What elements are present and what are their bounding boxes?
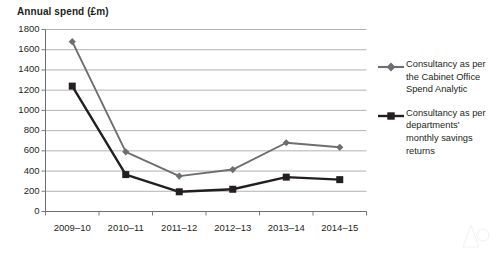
legend-label-series-1: Consultancy as per the Cabinet Office Sp… [406,58,494,96]
x-axis-tick-label: 2012–13 [206,222,260,233]
diamond-marker-icon [378,61,404,73]
series-line [72,42,340,176]
watermark-icon [457,221,493,251]
data-point-marker [283,174,290,181]
series-2 [69,83,344,196]
chart-legend: Consultancy as per the Cabinet Office Sp… [378,58,494,168]
data-point-marker [336,144,343,151]
y-axis-tick-label: 800 [8,125,40,135]
y-axis-tick-label: 1000 [8,105,40,115]
data-point-marker [283,139,290,146]
data-point-marker [122,148,129,155]
data-point-marker [69,83,76,90]
y-axis-tick-label: 400 [8,166,40,176]
data-point-marker [336,176,343,183]
data-point-marker [122,171,129,178]
data-point-marker [176,173,183,180]
x-axis-tick-label: 2010–11 [99,222,153,233]
chart-figure: Annual spend (£m) 0200400600800100012001… [0,0,497,253]
x-axis-tick-label: 2014–15 [313,222,367,233]
data-series-layer [69,38,344,195]
y-axis-tick-label: 1200 [8,85,40,95]
legend-label-series-2: Consultancy as per departments' monthly … [406,107,494,157]
x-axis-tick-label: 2009–10 [45,222,99,233]
y-axis-tick-label: 1400 [8,64,40,74]
x-axis-tick-label: 2013–14 [259,222,313,233]
series-line [72,86,340,192]
square-marker-icon [378,110,404,122]
y-axis-tick-label: 0 [8,206,40,216]
y-axis-tick-label: 200 [8,186,40,196]
y-axis-tick-label: 1600 [8,44,40,54]
legend-entry-series-2: Consultancy as per departments' monthly … [378,107,494,157]
series-1 [69,38,344,180]
data-point-marker [229,166,236,173]
x-axis-tick-label: 2011–12 [152,222,206,233]
y-axis-tick-label: 1800 [8,24,40,34]
data-point-marker [229,186,236,193]
chart-axes [42,30,367,216]
y-axis-tick-label: 600 [8,145,40,155]
legend-entry-series-1: Consultancy as per the Cabinet Office Sp… [378,58,494,96]
data-point-marker [176,188,183,195]
data-point-marker [69,38,76,45]
